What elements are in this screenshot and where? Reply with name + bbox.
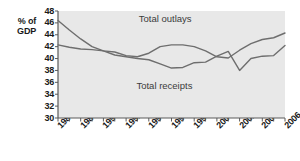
chart-figure: % of GDP 48464442403836343230 1986198819…	[0, 0, 300, 161]
series-annotation-total-outlays: Total outlays	[139, 13, 192, 24]
series-annotation-total-receipts: Total receipts	[136, 80, 192, 91]
plot-background	[58, 11, 285, 118]
